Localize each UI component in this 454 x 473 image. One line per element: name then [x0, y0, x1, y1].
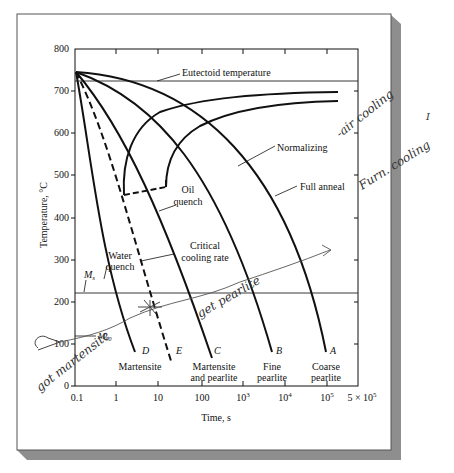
x-tick-10: 10: [153, 392, 163, 403]
label-full-anneal: Full anneal: [300, 181, 345, 192]
label-normalizing: Normalizing: [277, 142, 328, 153]
y-tick-800: 800: [54, 43, 69, 54]
label-e: E: [175, 345, 182, 356]
y-tick-200: 200: [54, 296, 69, 307]
y-tick-300: 300: [54, 254, 69, 265]
label-coarse-pearlite-2: pearlite: [311, 372, 342, 383]
card: [17, 14, 391, 450]
label-coarse-pearlite-1: Coarse: [312, 361, 340, 372]
y-tick-400: 400: [54, 212, 69, 223]
y-axis-title: Temperature, °C: [38, 182, 49, 248]
label-martensite: Martensite: [119, 361, 162, 372]
y-tick-600: 600: [54, 127, 69, 138]
y-tick-500: 500: [54, 169, 69, 180]
label-oil: Oil: [182, 184, 195, 195]
label-oil-quench: quench: [174, 196, 203, 207]
handwritten-i: I: [425, 111, 431, 122]
x-axis-title: Time, s: [201, 412, 231, 423]
x-tick-5e5: 5 × 105: [347, 391, 377, 403]
label-eutectoid: Eutectoid temperature: [182, 67, 271, 78]
x-tick-1: 1: [114, 392, 119, 403]
label-cooling-rate: cooling rate: [181, 252, 229, 263]
x-tick-100: 100: [195, 392, 210, 403]
label-fine-pearlite-1: Fine: [263, 361, 281, 372]
label-water: Water: [108, 250, 132, 261]
label-b: B: [276, 345, 282, 356]
ctt-diagram-page: 0 100 200 300 400 500 600 700 800 0.1 1 …: [0, 0, 454, 473]
label-a: A: [329, 345, 337, 356]
ctt-chart: 0 100 200 300 400 500 600 700 800 0.1 1 …: [0, 0, 454, 473]
y-tick-0: 0: [64, 380, 69, 391]
label-critical: Critical: [190, 240, 220, 251]
label-water-quench: quench: [106, 261, 135, 272]
label-fine-pearlite-2: pearlite: [257, 372, 288, 383]
label-d: D: [141, 345, 150, 356]
x-tick-0.1: 0.1: [71, 392, 84, 403]
label-c: C: [214, 345, 221, 356]
label-martensite-pearlite-1: Martensite: [193, 361, 236, 372]
label-martensite-pearlite-2: and pearlite: [191, 372, 238, 383]
y-tick-700: 700: [54, 85, 69, 96]
